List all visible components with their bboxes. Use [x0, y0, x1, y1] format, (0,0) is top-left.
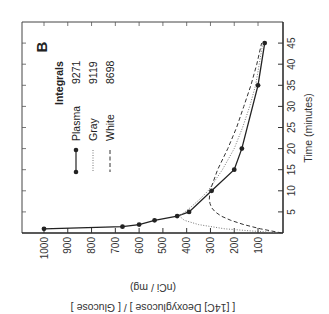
value-tick-label: 600	[134, 237, 145, 254]
plasma-data-point	[239, 146, 244, 151]
legend-label-gray: Gray	[87, 117, 99, 141]
value-axis-units: (nCi / mg)	[130, 282, 176, 294]
time-tick-label: 45	[286, 37, 297, 49]
plasma-data-point	[256, 83, 261, 88]
value-tick-label: 500	[157, 237, 168, 254]
plasma-data-point	[137, 222, 142, 227]
value-axis-title-group: (nCi / mg) [ [14C] Deoxyglucose ] / [ Gl…	[71, 282, 236, 314]
plasma-data-point	[232, 167, 237, 172]
time-tick-label: 40	[286, 58, 297, 70]
legend-integral-white: 8698	[104, 60, 116, 84]
time-tick-label: 20	[286, 143, 297, 155]
value-tick-label: 800	[86, 237, 97, 254]
value-axis-title: [ [14C] Deoxyglucose ] / [ Glucose ]	[71, 302, 236, 314]
time-tick-label: 25	[286, 122, 297, 134]
plasma-data-point	[120, 224, 125, 229]
plot-frame	[22, 22, 283, 233]
time-tick-label: 35	[286, 79, 297, 91]
time-tick-label: 30	[286, 100, 297, 112]
legend-item-plasma: Plasma 9271	[70, 60, 82, 174]
panel-label: B	[33, 41, 50, 52]
legend-item-gray: Gray 9119	[87, 61, 99, 172]
plasma-data-point	[152, 218, 157, 223]
value-tick-label: 1000	[39, 237, 50, 260]
time-tick-label: 5	[286, 209, 297, 215]
legend-label-plasma: Plasma	[70, 106, 82, 141]
time-tick-label: 10	[286, 185, 297, 197]
value-tick-label: 700	[110, 237, 121, 254]
value-tick-label: 200	[229, 237, 240, 254]
legend-title: Integrals	[53, 61, 65, 105]
plasma-data-point	[262, 41, 267, 46]
series-gray-line	[180, 43, 282, 233]
time-tick-label: 15	[286, 164, 297, 176]
plasma-data-point	[175, 214, 180, 219]
series-white-line	[209, 43, 281, 233]
value-tick-label: 900	[62, 237, 73, 254]
chart-figure: 1002003004005006007008009001000 51015202…	[0, 0, 329, 314]
time-axis-title: Time (minutes)	[302, 93, 314, 163]
value-tick-label: 100	[253, 237, 264, 254]
legend-integral-plasma: 9271	[70, 60, 82, 84]
value-tick-label: 400	[181, 237, 192, 254]
legend-label-white: White	[104, 114, 116, 141]
legend: Integrals Plasma 9271 Gray 9119 White 86…	[53, 60, 116, 174]
value-tick-label: 300	[205, 237, 216, 254]
plasma-data-point	[42, 226, 47, 231]
legend-item-white: White 8698	[104, 60, 116, 172]
legend-integral-gray: 9119	[87, 61, 99, 84]
